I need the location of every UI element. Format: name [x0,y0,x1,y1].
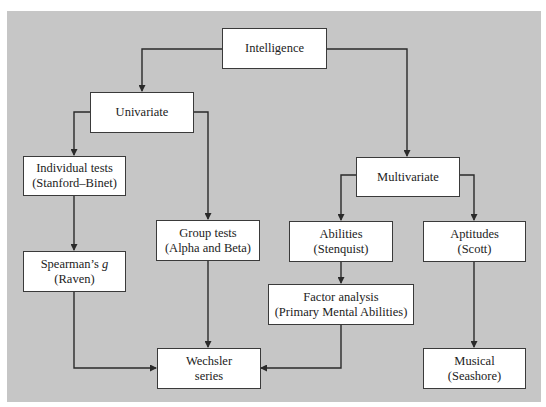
node-musical: Musical (Seashore) [423,348,526,389]
node-individual-tests: Individual tests (Stanford–Binet) [23,156,126,196]
node-sublabel: (Alpha and Beta) [165,241,251,256]
node-sublabel: (Stenquist) [314,242,369,257]
node-intelligence: Intelligence [222,28,327,69]
node-spearman-g: Spearman’s g (Raven) [23,251,126,292]
node-univariate: Univariate [90,92,194,133]
node-label: Wechsler [186,354,232,369]
node-group-tests: Group tests (Alpha and Beta) [156,220,260,261]
node-label: Multivariate [377,170,439,185]
node-label: Musical [454,354,494,369]
edge-univariate-individual [74,112,90,155]
edge-univariate-group [193,112,208,219]
node-multivariate: Multivariate [356,157,460,197]
node-sublabel: (Stanford–Binet) [32,176,117,191]
node-label: Intelligence [245,41,304,56]
edge-intelligence-multivariate [326,49,407,156]
node-label-prefix: Spearman’s [41,257,102,271]
edge-spearman-wechsler [74,291,156,368]
node-label: Group tests [179,226,236,241]
node-label: Spearman’s g [41,257,109,272]
node-sublabel: (Primary Mental Abilities) [275,305,408,320]
node-label: Individual tests [36,161,113,176]
node-sublabel: (Raven) [54,272,94,287]
node-sublabel: (Seashore) [448,369,501,384]
edge-multivariate-aptitudes [459,175,474,220]
edge-multivariate-abilities [341,175,356,220]
node-label: Univariate [116,105,169,120]
node-factor-analysis: Factor analysis (Primary Mental Abilitie… [268,284,414,325]
node-sublabel: (Scott) [457,242,491,257]
node-label: Factor analysis [303,290,378,305]
node-wechsler-series: Wechsler series [157,348,261,389]
node-sublabel: series [195,369,223,384]
node-label: Aptitudes [450,227,499,242]
edge-intelligence-univariate [142,49,222,91]
node-abilities: Abilities (Stenquist) [289,221,393,262]
node-label-italic-g: g [102,257,108,271]
node-aptitudes: Aptitudes (Scott) [423,221,526,262]
edge-factor-wechsler [261,324,341,368]
node-label: Abilities [319,227,362,242]
